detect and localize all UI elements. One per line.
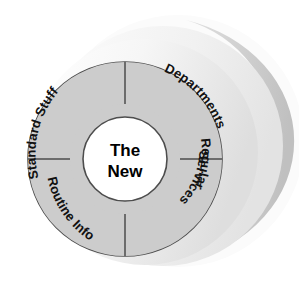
center-label-line1: The — [110, 141, 140, 160]
center-label-line2: New — [108, 162, 144, 181]
wheel-diagram: Standard Stuff Departments Routine Info … — [0, 0, 299, 284]
wheel-diagram-canvas: Standard Stuff Departments Routine Info … — [0, 0, 299, 284]
